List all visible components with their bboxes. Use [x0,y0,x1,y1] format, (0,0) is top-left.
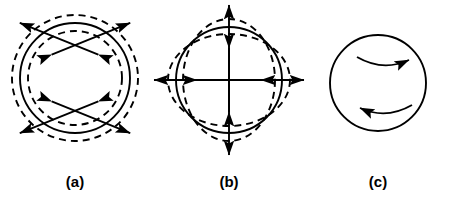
panel-a-arrow-lower-left [20,101,99,133]
panel-a-arrow-upper-left [20,23,99,55]
panel-c-equilibrium-circle [330,35,426,131]
panel-b [154,5,304,155]
mode-diagram-figure: (a) (b) (c) [0,0,453,204]
panel-c [330,35,426,131]
panel-a-arrow-upper-right [52,23,131,55]
panel-label-a: (a) [45,173,105,190]
panel-b-axial-arrows [154,5,304,155]
panel-c-arrow-upper-right [357,57,409,65]
panel-c-arrow-lower-left [360,105,412,113]
panel-a-outer-dashed-circle [12,15,138,141]
panel-a-arrow-lower-right [52,101,131,133]
panel-label-c: (c) [348,173,408,190]
panel-a [12,15,138,141]
panel-label-b: (b) [199,173,259,190]
panel-a-equilibrium-circle [20,23,130,133]
